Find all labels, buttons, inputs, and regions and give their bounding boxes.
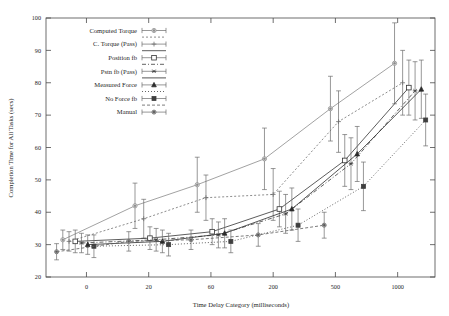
y-tick-label: 100 bbox=[32, 14, 41, 21]
data-point-marker bbox=[263, 158, 265, 160]
y-tick-label: 50 bbox=[35, 176, 41, 183]
data-point-marker bbox=[361, 184, 365, 188]
y-tick-label: 80 bbox=[35, 79, 41, 86]
data-point-marker bbox=[257, 234, 259, 236]
data-point-marker bbox=[73, 239, 78, 244]
data-point-marker bbox=[62, 239, 64, 241]
legend-marker bbox=[152, 55, 157, 60]
x-tick-label: 20 bbox=[146, 283, 152, 290]
y-tick-label: 60 bbox=[35, 144, 41, 151]
data-point-marker bbox=[342, 158, 347, 163]
legend-marker bbox=[153, 111, 155, 113]
legend-label: Position fb bbox=[108, 54, 137, 61]
legend-label: Pstn fb (Pass) bbox=[101, 68, 137, 76]
legend-label: No Force fb bbox=[105, 95, 138, 102]
data-point-marker bbox=[424, 118, 428, 122]
data-point-marker bbox=[55, 251, 57, 253]
legend-label: Manual bbox=[117, 108, 137, 115]
data-point-marker bbox=[277, 207, 282, 212]
x-tick-label: 500 bbox=[331, 283, 340, 290]
data-point-marker bbox=[210, 229, 215, 234]
data-point-marker bbox=[229, 239, 233, 243]
legend-label: Computed Torque bbox=[89, 27, 137, 34]
x-tick-label: 0 bbox=[85, 283, 88, 290]
legend-marker bbox=[152, 97, 156, 101]
data-point-marker bbox=[190, 239, 192, 241]
y-tick-label: 20 bbox=[35, 273, 41, 280]
chart-background bbox=[0, 0, 449, 316]
data-point-marker bbox=[323, 224, 325, 226]
x-tick-label: 60 bbox=[208, 283, 214, 290]
data-point-marker bbox=[128, 240, 130, 242]
data-point-marker bbox=[296, 223, 300, 227]
data-point-marker bbox=[394, 62, 396, 64]
data-point-marker bbox=[167, 243, 171, 247]
data-point-marker bbox=[329, 108, 331, 110]
y-tick-label: 30 bbox=[35, 241, 41, 248]
data-point-marker bbox=[134, 205, 136, 207]
legend-label: C. Torque (Pass) bbox=[93, 40, 137, 48]
data-point-marker bbox=[407, 85, 412, 90]
x-tick-label: 1000 bbox=[391, 283, 403, 290]
y-tick-label: 90 bbox=[35, 47, 41, 54]
x-tick-label: 200 bbox=[269, 283, 278, 290]
x-axis-title: Time Delay Category (milliseconds) bbox=[193, 301, 289, 309]
data-point-marker bbox=[196, 184, 198, 186]
y-axis-title: Completion Time for All Tasks (secs) bbox=[7, 99, 15, 198]
y-tick-label: 70 bbox=[35, 111, 41, 118]
chart-figure: 2030405060708090100 020602005001000 Comp… bbox=[0, 0, 449, 316]
legend-marker bbox=[153, 30, 155, 32]
y-tick-label: 40 bbox=[35, 208, 41, 215]
legend-label: Measured Force bbox=[94, 81, 137, 88]
